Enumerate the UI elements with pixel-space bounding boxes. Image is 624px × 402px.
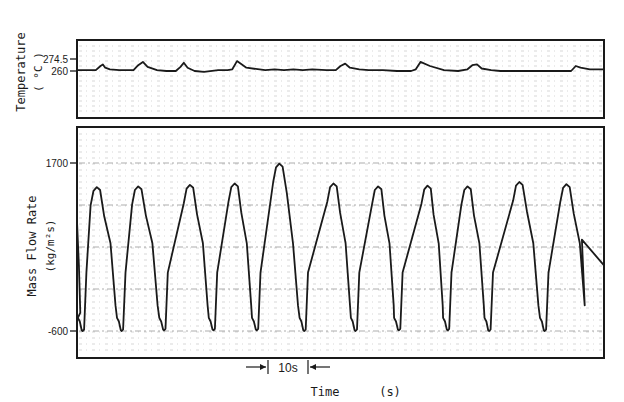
mass-flow-axis-title: Mass Flow Rate (25, 195, 39, 296)
mass-flow-axis-unit: (kg/m²s) (44, 220, 57, 273)
temperature-tick-label-274: 274.5 (43, 54, 68, 65)
scale-bar-label: 10s (278, 361, 297, 375)
mass-flow-tick-label-minus600: -600 (48, 326, 68, 337)
time-scale-bar: 10s (246, 360, 330, 375)
x-axis-title: Time (311, 385, 340, 399)
temperature-tick-label-260: 260 (51, 66, 68, 77)
temperature-line (77, 61, 604, 72)
oscillation-chart: 274.5 260 Temperature ( °C ) 1700 -600 M… (0, 0, 624, 402)
mass-flow-panel: 1700 -600 Mass Flow Rate (kg/m²s) (25, 127, 604, 358)
temperature-frame (77, 40, 604, 118)
scale-bar-left-arrowhead-icon (260, 364, 266, 370)
mass-flow-tick-label-1700: 1700 (46, 158, 69, 169)
x-axis-unit: (s) (379, 385, 401, 399)
mass-flow-grid (79, 134, 602, 350)
temperature-grid (79, 46, 602, 111)
mass-flow-frame (77, 127, 604, 358)
temperature-axis-title: Temperature (14, 32, 28, 111)
temperature-axis-unit: ( °C ) (32, 52, 45, 92)
temperature-panel: 274.5 260 Temperature ( °C ) (14, 32, 604, 118)
